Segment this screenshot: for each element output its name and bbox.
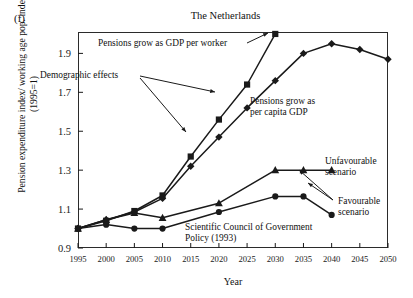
x-tick-label: 2000 xyxy=(98,254,115,264)
x-tick-label: 2030 xyxy=(267,254,284,264)
y-tick-label: 1.9 xyxy=(58,48,71,59)
annotation-favourable-scenario: Favourable scenario xyxy=(338,196,380,217)
x-tick-label: 2025 xyxy=(238,254,255,264)
annotation-per-capita-gdp-line1: Pensions grow as xyxy=(250,96,315,107)
annotation-unfavourable-scenario: Unfavourable scenario xyxy=(325,156,377,177)
annotation-per-capita-gdp-line2: per capita GDP xyxy=(250,107,315,118)
annotation-favourable-line2: scenario xyxy=(338,207,380,218)
y-tick-label: 1.7 xyxy=(58,87,71,98)
x-tick-label: 2020 xyxy=(210,254,227,264)
x-tick-label: 2010 xyxy=(154,254,171,264)
annotation-favourable-line1: Favourable xyxy=(338,196,380,207)
chart-title: The Netherlands xyxy=(0,10,413,21)
annotation-gdp-per-worker: Pensions grow as GDP per worker xyxy=(98,38,227,49)
x-tick-label: 2050 xyxy=(379,254,396,264)
annotation-demographic-effects: Demographic effects xyxy=(40,70,118,81)
y-axis-title: Pension expenditure index/ working age p… xyxy=(16,0,40,194)
x-tick-label: 2035 xyxy=(295,254,312,264)
x-tick-label: 2040 xyxy=(323,254,340,264)
x-axis-title: Year xyxy=(78,276,388,287)
x-tick-label: 1995 xyxy=(69,254,86,264)
y-tick-label: 1.5 xyxy=(58,126,71,137)
annotation-unfavourable-line1: Unfavourable xyxy=(325,156,377,167)
y-tick-label: 1.1 xyxy=(58,204,71,215)
y-tick-label: 0.9 xyxy=(58,243,71,254)
figure-panel: (f) The Netherlands Pension expenditure … xyxy=(0,0,413,298)
annotation-council-line2: Policy (1993) xyxy=(185,233,312,244)
x-tick-label: 2015 xyxy=(182,254,199,264)
annotation-council-line1: Scientific Council of Government xyxy=(185,222,312,233)
x-tick-label: 2045 xyxy=(351,254,368,264)
annotation-per-capita-gdp: Pensions grow as per capita GDP xyxy=(250,96,315,117)
y-tick-label: 1.3 xyxy=(58,165,71,176)
x-tick-label: 2005 xyxy=(126,254,143,264)
annotation-unfavourable-line2: scenario xyxy=(325,167,377,178)
annotation-scientific-council: Scientific Council of Government Policy … xyxy=(185,222,312,244)
